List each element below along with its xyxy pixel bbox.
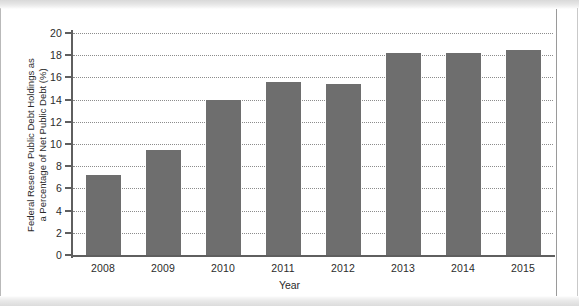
y-axis-tick-label: 8 — [22, 160, 62, 172]
bar-2011 — [266, 82, 301, 255]
bar-chart: Federal Reserve Public Debt Holdings as … — [0, 0, 579, 306]
y-axis-tick-label: 16 — [22, 71, 62, 83]
bar-2008 — [86, 175, 121, 255]
bar-2012 — [326, 84, 361, 255]
y-axis-tick-label: 20 — [22, 27, 62, 39]
bar-2009 — [146, 150, 181, 255]
y-axis-tick-label: 0 — [22, 249, 62, 261]
x-axis-title: Year — [0, 279, 579, 291]
y-axis-tick-label: 2 — [22, 227, 62, 239]
x-axis-tick-label: 2008 — [73, 262, 133, 274]
y-axis-tick-label: 14 — [22, 94, 62, 106]
x-axis-tick-label: 2011 — [253, 262, 313, 274]
x-axis-tick-label: 2013 — [373, 262, 433, 274]
x-axis-tick-label: 2009 — [133, 262, 193, 274]
x-axis-tick-label: 2014 — [433, 262, 493, 274]
bar-series — [73, 33, 553, 255]
x-axis-tick-label: 2012 — [313, 262, 373, 274]
y-axis-tick-label: 12 — [22, 116, 62, 128]
bar-2014 — [446, 53, 481, 255]
y-axis-tick-label: 6 — [22, 182, 62, 194]
x-axis-tick-label: 2010 — [193, 262, 253, 274]
bar-2013 — [386, 53, 421, 255]
y-axis-tick-label: 18 — [22, 49, 62, 61]
y-axis-tick-label: 10 — [22, 138, 62, 150]
x-axis-line — [71, 255, 555, 257]
y-axis-tick-labels: 02468101214161820 — [18, 0, 62, 306]
x-axis-tick-label: 2015 — [493, 262, 553, 274]
bar-2010 — [206, 100, 241, 255]
y-axis-tick-label: 4 — [22, 205, 62, 217]
bar-2015 — [506, 50, 541, 255]
